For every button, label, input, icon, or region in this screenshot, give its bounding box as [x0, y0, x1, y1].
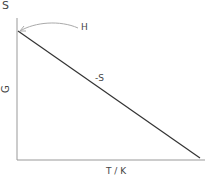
h-arrow — [20, 23, 78, 31]
x-axis-label: T / K — [106, 166, 126, 176]
arrow-label: H — [81, 22, 88, 32]
g-line — [18, 31, 200, 158]
corner-label: S — [2, 1, 9, 11]
y-axis-label: G — [1, 85, 11, 93]
diagram-canvas — [0, 0, 208, 177]
curve-label: -S — [95, 73, 104, 83]
